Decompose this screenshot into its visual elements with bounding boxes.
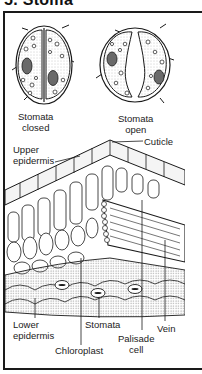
- label-text: Upper: [13, 144, 54, 155]
- label-cuticle: Cuticle: [144, 136, 173, 147]
- stomata-closed-illustration: [12, 25, 74, 104]
- label-upper-epidermis: Upper epidermis: [13, 144, 54, 166]
- stoma-diagram: [0, 0, 202, 374]
- label-text: epidermis: [13, 155, 54, 166]
- label-text: closed: [18, 122, 53, 133]
- label-stomata: Stomata: [85, 319, 120, 330]
- label-stomata-open: Stomata open: [118, 113, 153, 135]
- label-chloroplast: Chloroplast: [55, 345, 103, 356]
- label-vein: Vein: [157, 323, 176, 334]
- leaf-cross-section: [5, 140, 185, 330]
- label-stomata-closed: Stomata closed: [18, 111, 53, 133]
- label-text: Stomata: [18, 111, 53, 122]
- label-text: cell: [118, 344, 154, 355]
- label-palisade-cell: Palisade cell: [118, 333, 154, 355]
- label-text: open: [118, 124, 153, 135]
- label-text: epidermis: [13, 330, 54, 341]
- stomata-open-illustration: [96, 24, 174, 103]
- label-text: Palisade: [118, 333, 154, 344]
- label-text: Lower: [13, 319, 54, 330]
- label-text: Stomata: [118, 113, 153, 124]
- label-lower-epidermis: Lower epidermis: [13, 319, 54, 341]
